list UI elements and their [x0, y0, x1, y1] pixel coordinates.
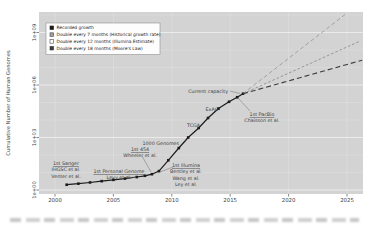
annotation-current-capacity: Current capacity: [188, 89, 228, 94]
x-tick-label: 2015: [223, 197, 237, 203]
legend-marker-filled-dark-square: [50, 46, 54, 50]
y-axis-title: Cumulative Number of Human Genomes: [5, 50, 11, 156]
data-point-marker: [207, 117, 210, 120]
x-tick-label: 2005: [107, 197, 121, 203]
annotation-1st-sanger: 1st SangerIHGSC et al.Venter et al.: [51, 161, 80, 178]
y-tick-label: 1e+03: [31, 129, 37, 146]
legend-item-label: Double every 12 months (Illumina Estimat…: [57, 39, 155, 44]
data-point-marker: [178, 147, 181, 150]
data-point-marker: [228, 100, 231, 103]
y-tick-label: 1e+00: [31, 181, 37, 198]
legend-item-label: Recorded growth: [57, 25, 95, 30]
y-tick-label: 1e+09: [31, 24, 37, 41]
genome-growth-figure: 2000200520102015202020251e+001e+031e+061…: [0, 0, 369, 226]
growth-chart: 2000200520102015202020251e+001e+031e+061…: [0, 0, 369, 226]
x-tick-label: 2000: [48, 197, 62, 203]
x-tick-label: 2020: [282, 197, 296, 203]
data-point-marker: [135, 176, 138, 179]
legend-item-label: Double every 18 months (Moore's Law): [57, 46, 144, 51]
legend-marker-open-square: [50, 40, 54, 44]
data-point-marker: [158, 170, 161, 173]
blurred-caption-text: [10, 218, 359, 222]
growth-chart-svg: 2000200520102015202020251e+001e+031e+061…: [0, 0, 369, 226]
data-point-marker: [167, 159, 170, 162]
y-tick-label: 1e+06: [31, 76, 37, 93]
x-tick-label: 2025: [340, 197, 354, 203]
annotation-1st-pacbio: 1st PacBioChaisson et al.: [244, 112, 279, 123]
data-point-marker: [89, 181, 92, 184]
annotation-1000-genomes: 1000 Genomes: [143, 141, 180, 146]
legend-marker-filled-gray-square: [50, 33, 54, 37]
legend-marker-filled-black-square: [50, 26, 54, 30]
data-point-marker: [151, 173, 154, 176]
data-point-marker: [77, 182, 80, 185]
annotation-exac: ExAC: [206, 107, 219, 112]
x-tick-label: 2010: [165, 197, 179, 203]
legend-box: Recorded growthDouble every 7 months (Hi…: [46, 23, 161, 55]
legend-item-label: Double every 7 months (Historical growth…: [57, 32, 161, 37]
annotation-tcga: TCGA: [186, 123, 201, 128]
data-point-marker: [187, 136, 190, 139]
data-point-marker: [100, 180, 103, 183]
data-point-marker: [144, 174, 147, 177]
data-point-marker: [65, 183, 68, 186]
